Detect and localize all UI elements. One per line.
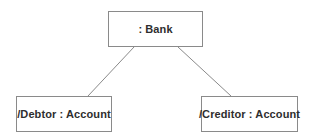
object-node-debtor[interactable]: /Debtor : Account [16,96,112,132]
uml-object-diagram: : Bank /Debtor : Account /Creditor : Acc… [0,0,310,139]
object-node-bank[interactable]: : Bank [108,11,203,47]
object-node-creditor[interactable]: /Creditor : Account [201,96,298,132]
link-bank-to-debtor [88,47,134,96]
link-bank-to-creditor [178,47,231,96]
object-node-debtor-label: /Debtor : Account [17,109,111,120]
object-node-bank-label: : Bank [138,24,172,35]
object-node-creditor-label: /Creditor : Account [199,109,300,120]
